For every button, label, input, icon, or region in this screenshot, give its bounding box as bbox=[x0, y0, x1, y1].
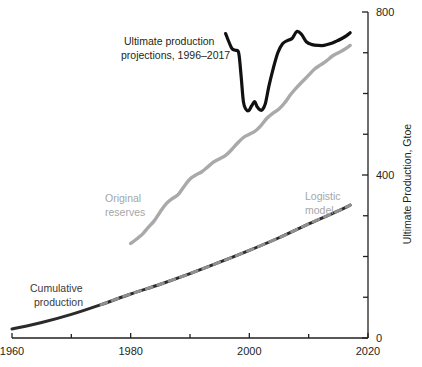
x-tick-label: 1980 bbox=[118, 345, 142, 357]
x-tick-label: 2000 bbox=[237, 345, 261, 357]
annotation-original-reserves: Original reserves bbox=[105, 192, 145, 218]
logistic-model-label-line1: Logistic bbox=[305, 190, 341, 202]
original-reserves-label-line1: Original bbox=[105, 192, 141, 204]
x-tick-label: 2020 bbox=[356, 345, 380, 357]
projections-label-line1: Ultimate production bbox=[124, 35, 215, 47]
y-axis-ticks bbox=[362, 12, 368, 338]
annotation-cumulative-production: Cumulative production bbox=[30, 282, 83, 308]
y-tick-label: 400 bbox=[376, 169, 394, 181]
cumulative-production-label-line2: production bbox=[34, 296, 83, 308]
x-axis-ticks bbox=[12, 333, 368, 338]
x-axis-tick-labels: 1960198020002020 bbox=[0, 345, 380, 357]
logistic-model-label-line2: model bbox=[305, 204, 334, 216]
projections-label-line2: projections, 1996–2017 bbox=[121, 49, 230, 61]
cumulative-production-label-line1: Cumulative bbox=[30, 282, 83, 294]
y-tick-label: 800 bbox=[376, 6, 394, 18]
chart-container: 1960198020002020 0400800 Ultimate Produc… bbox=[0, 0, 422, 367]
y-axis-title: Ultimate Production, Gtoe bbox=[401, 124, 413, 244]
series-line-3 bbox=[101, 205, 350, 304]
x-tick-label: 1960 bbox=[0, 345, 24, 357]
original-reserves-label-line2: reserves bbox=[105, 206, 145, 218]
annotation-projections: Ultimate production projections, 1996–20… bbox=[121, 35, 230, 61]
y-axis-tick-labels: 0400800 bbox=[376, 6, 394, 344]
series-line-2 bbox=[12, 205, 350, 329]
y-tick-label: 0 bbox=[376, 332, 382, 344]
ultimate-production-chart: 1960198020002020 0400800 Ultimate Produc… bbox=[0, 0, 422, 367]
